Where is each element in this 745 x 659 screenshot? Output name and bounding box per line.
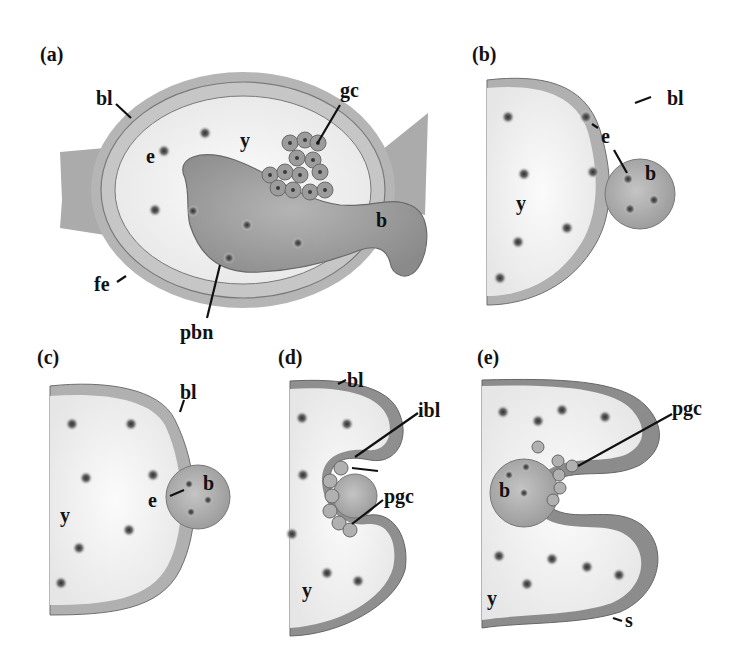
annotation-e-y: y xyxy=(487,588,497,608)
annotation-a-e: e xyxy=(146,146,155,166)
annotation-c-y: y xyxy=(60,505,70,525)
annotation-d-bl: bl xyxy=(347,370,364,390)
pole-bud-b xyxy=(605,159,675,229)
annotation-d-y: y xyxy=(302,580,312,600)
pole-bud-c xyxy=(166,465,230,529)
annotation-b-e: e xyxy=(601,126,610,146)
panel-a xyxy=(60,72,428,318)
annotation-e-s: s xyxy=(625,610,633,630)
panel-e xyxy=(482,379,672,628)
annotation-d-ibl: ibl xyxy=(418,400,440,420)
annotation-a-pbn: pbn xyxy=(180,322,213,342)
annotation-c-bl: bl xyxy=(180,382,197,402)
annotation-a-y: y xyxy=(240,130,250,150)
annotation-e-pgc: pgc xyxy=(672,398,702,418)
pole-bud-d xyxy=(333,474,377,518)
annotation-b-b: b xyxy=(645,163,656,183)
annotation-d-pgc: pgc xyxy=(384,486,414,506)
panel-label-c: (c) xyxy=(37,347,59,367)
annotation-a-gc: gc xyxy=(340,80,359,100)
panel-label-d: (d) xyxy=(278,347,302,367)
annotation-a-bl: bl xyxy=(96,88,113,108)
panel-label-b: (b) xyxy=(472,44,496,64)
annotation-b-bl: bl xyxy=(667,88,684,108)
annotation-c-e: e xyxy=(148,490,157,510)
panel-label-a: (a) xyxy=(40,44,63,64)
annotation-a-fe: fe xyxy=(94,274,110,294)
annotation-c-b: b xyxy=(203,473,214,493)
annotation-e-b: b xyxy=(499,480,510,500)
panel-label-e: (e) xyxy=(477,347,499,367)
annotation-b-y: y xyxy=(516,193,526,213)
panel-c xyxy=(50,384,230,615)
annotation-a-b: b xyxy=(376,210,387,230)
